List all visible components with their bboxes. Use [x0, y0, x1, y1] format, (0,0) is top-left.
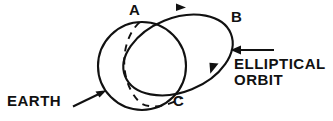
elliptical-orbit-label-line1: ELLIPTICAL — [234, 56, 326, 71]
elliptical-orbit-label-line2: ORBIT — [234, 72, 283, 87]
point-label-c: C — [173, 93, 184, 108]
earth-callout-arrow — [73, 90, 107, 106]
point-label-a: A — [129, 2, 140, 17]
orbit-callout-arrow — [231, 46, 275, 55]
orbit-diagram: A B C EARTH ELLIPTICAL ORBIT — [0, 0, 333, 121]
point-label-b: B — [231, 9, 242, 24]
orbit-direction-arrow-top — [176, 4, 186, 12]
earth-label: EARTH — [7, 93, 61, 108]
